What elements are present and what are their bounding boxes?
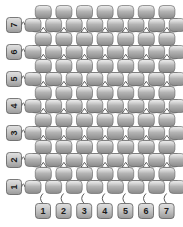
bead[interactable] <box>25 73 41 86</box>
bead[interactable] <box>56 60 72 73</box>
bead[interactable] <box>138 114 154 127</box>
bead[interactable] <box>149 19 165 32</box>
column-label-6[interactable]: 6 <box>139 204 154 219</box>
bead[interactable] <box>46 181 62 194</box>
bead[interactable] <box>77 168 93 181</box>
bead[interactable] <box>97 168 113 181</box>
bead[interactable] <box>87 46 103 59</box>
bead[interactable] <box>25 154 41 167</box>
bead[interactable] <box>169 19 183 32</box>
bead[interactable] <box>77 6 93 19</box>
bead[interactable] <box>97 6 113 19</box>
column-label-7[interactable]: 7 <box>159 204 174 219</box>
bead[interactable] <box>56 141 72 154</box>
bead[interactable] <box>77 33 93 46</box>
bead[interactable] <box>35 114 51 127</box>
bead[interactable] <box>77 114 93 127</box>
bead[interactable] <box>77 87 93 100</box>
bead[interactable] <box>56 6 72 19</box>
row-label-3[interactable]: 3 <box>7 126 22 141</box>
bead[interactable] <box>77 141 93 154</box>
bead[interactable] <box>97 114 113 127</box>
bead[interactable] <box>118 6 134 19</box>
bead[interactable] <box>169 181 183 194</box>
row-label-5[interactable]: 5 <box>7 72 22 87</box>
bead[interactable] <box>128 127 144 140</box>
row-label-4[interactable]: 4 <box>7 99 22 114</box>
bead[interactable] <box>118 60 134 73</box>
bead[interactable] <box>159 60 175 73</box>
bead[interactable] <box>25 181 41 194</box>
bead[interactable] <box>159 33 175 46</box>
bead[interactable] <box>169 100 183 113</box>
bead[interactable] <box>107 100 123 113</box>
bead[interactable] <box>169 154 183 167</box>
bead[interactable] <box>138 6 154 19</box>
bead[interactable] <box>56 168 72 181</box>
bead[interactable] <box>87 154 103 167</box>
bead[interactable] <box>149 154 165 167</box>
row-label-2[interactable]: 2 <box>7 153 22 168</box>
bead[interactable] <box>35 6 51 19</box>
bead[interactable] <box>97 141 113 154</box>
bead[interactable] <box>46 100 62 113</box>
bead[interactable] <box>87 73 103 86</box>
bead[interactable] <box>149 100 165 113</box>
bead[interactable] <box>149 46 165 59</box>
bead[interactable] <box>159 6 175 19</box>
bead[interactable] <box>66 19 82 32</box>
bead[interactable] <box>118 33 134 46</box>
bead[interactable] <box>169 73 183 86</box>
column-label-2[interactable]: 2 <box>56 204 71 219</box>
bead[interactable] <box>46 127 62 140</box>
bead[interactable] <box>35 168 51 181</box>
row-label-7[interactable]: 7 <box>7 18 22 33</box>
row-label-1[interactable]: 1 <box>7 180 22 195</box>
bead[interactable] <box>138 168 154 181</box>
bead[interactable] <box>35 60 51 73</box>
bead[interactable] <box>66 73 82 86</box>
bead[interactable] <box>149 127 165 140</box>
bead[interactable] <box>97 60 113 73</box>
bead[interactable] <box>87 181 103 194</box>
bead[interactable] <box>128 19 144 32</box>
bead[interactable] <box>169 46 183 59</box>
bead[interactable] <box>87 100 103 113</box>
bead[interactable] <box>107 154 123 167</box>
column-label-3[interactable]: 3 <box>77 204 92 219</box>
bead[interactable] <box>25 100 41 113</box>
bead[interactable] <box>107 73 123 86</box>
bead[interactable] <box>107 46 123 59</box>
bead[interactable] <box>66 46 82 59</box>
bead[interactable] <box>66 181 82 194</box>
bead[interactable] <box>128 46 144 59</box>
bead[interactable] <box>159 114 175 127</box>
bead[interactable] <box>56 114 72 127</box>
bead[interactable] <box>25 19 41 32</box>
bead[interactable] <box>66 127 82 140</box>
bead[interactable] <box>128 100 144 113</box>
bead[interactable] <box>159 87 175 100</box>
column-label-5[interactable]: 5 <box>118 204 133 219</box>
bead[interactable] <box>46 46 62 59</box>
bead[interactable] <box>159 168 175 181</box>
bead[interactable] <box>107 127 123 140</box>
bead[interactable] <box>97 87 113 100</box>
bead[interactable] <box>118 168 134 181</box>
bead[interactable] <box>87 19 103 32</box>
bead[interactable] <box>128 181 144 194</box>
bead[interactable] <box>66 154 82 167</box>
column-label-4[interactable]: 4 <box>97 204 112 219</box>
bead[interactable] <box>35 141 51 154</box>
bead[interactable] <box>149 181 165 194</box>
bead[interactable] <box>66 100 82 113</box>
bead[interactable] <box>118 141 134 154</box>
bead[interactable] <box>159 141 175 154</box>
bead[interactable] <box>56 33 72 46</box>
bead[interactable] <box>128 154 144 167</box>
column-label-1[interactable]: 1 <box>36 204 51 219</box>
bead[interactable] <box>35 87 51 100</box>
bead[interactable] <box>169 127 183 140</box>
bead[interactable] <box>46 73 62 86</box>
bead[interactable] <box>46 154 62 167</box>
